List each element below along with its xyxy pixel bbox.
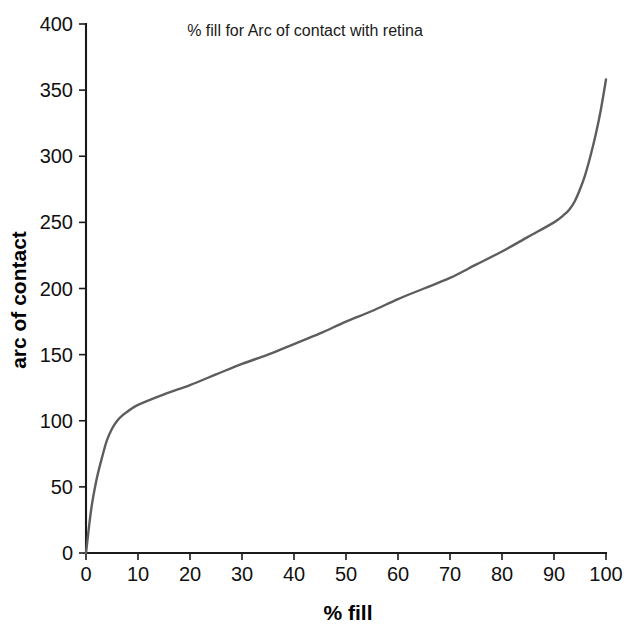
chart-title: % fill for Arc of contact with retina <box>187 22 423 39</box>
y-tick-label: 100 <box>40 410 73 432</box>
x-tick-label: 40 <box>283 563 305 585</box>
x-tick-label: 80 <box>491 563 513 585</box>
y-tick-label: 150 <box>40 344 73 366</box>
chart-container: % fill for Arc of contact with retina 05… <box>0 0 630 635</box>
y-tick-label: 250 <box>40 211 73 233</box>
x-tick-label: 70 <box>439 563 461 585</box>
x-tick-label: 0 <box>80 563 91 585</box>
x-axis-title: % fill <box>323 601 372 624</box>
y-tick-label: 200 <box>40 278 73 300</box>
x-tick-label: 20 <box>179 563 201 585</box>
x-tick-label: 60 <box>387 563 409 585</box>
y-tick-label: 400 <box>40 13 73 35</box>
chart-background <box>0 0 630 635</box>
x-tick-label: 10 <box>127 563 149 585</box>
line-chart: % fill for Arc of contact with retina 05… <box>0 0 630 635</box>
x-tick-label: 50 <box>335 563 357 585</box>
x-tick-label: 90 <box>543 563 565 585</box>
x-tick-label: 100 <box>589 563 622 585</box>
y-tick-label: 50 <box>51 476 73 498</box>
y-tick-label: 350 <box>40 79 73 101</box>
y-tick-label: 300 <box>40 145 73 167</box>
y-axis-title: arc of contact <box>7 231 30 369</box>
y-tick-label: 0 <box>62 542 73 564</box>
x-tick-label: 30 <box>231 563 253 585</box>
